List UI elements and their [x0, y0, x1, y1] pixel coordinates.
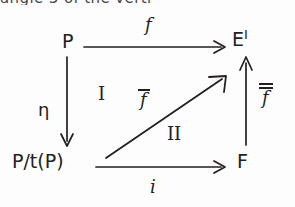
arrow-label-top-f-text: f — [145, 14, 152, 35]
region-numeral-ii: II — [167, 125, 181, 143]
node-f: F — [237, 152, 248, 171]
region-numeral-i-text: I — [98, 83, 105, 104]
arrow-label-diagonal-f-bar: f — [140, 89, 147, 109]
region-numeral-ii-text: II — [167, 123, 181, 144]
arrow-label-bottom-i-text: i — [150, 176, 156, 197]
arrow-label-bottom-i: i — [150, 178, 156, 196]
node-e-superscript: I — [244, 27, 248, 42]
node-f-label: F — [237, 150, 248, 172]
arrow-label-diagonal-f-bar-text: f — [140, 89, 147, 109]
arrow-label-right-f-double-bar: f — [262, 83, 269, 107]
node-p-label: P — [62, 30, 73, 52]
arrow-right-f-to-ei — [240, 57, 252, 145]
arrow-label-left-eta-text: η — [38, 99, 49, 120]
node-p-mod-t-p: P/t(P) — [12, 152, 64, 171]
diagram-page: angle 3 of the verti E^I --> P/t(P) --> … — [0, 0, 295, 207]
node-p: P — [62, 32, 73, 51]
arrow-label-left-eta: η — [38, 101, 49, 119]
node-p-mod-t-p-label: P/t(P) — [12, 150, 64, 172]
arrow-bottom-ptp-to-f — [96, 161, 225, 173]
arrow-left-p-to-ptp — [61, 57, 73, 146]
arrow-label-right-f-double-bar-text: f — [262, 83, 269, 107]
cut-off-running-text: angle 3 of the verti — [0, 0, 295, 5]
arrow-label-top-f: f — [145, 16, 152, 34]
arrow-top-p-to-ei — [84, 41, 225, 53]
region-numeral-i: I — [98, 85, 105, 103]
node-e-label: E — [232, 28, 244, 50]
arrow-diagonal-ptp-to-ei — [106, 76, 226, 158]
node-e-upper-i: EI — [232, 30, 248, 49]
